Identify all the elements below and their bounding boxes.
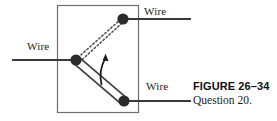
wire-label-top: Wire (144, 5, 166, 17)
rotation-arrowhead (103, 54, 109, 61)
figure-caption-subtitle: Question 20. (193, 93, 277, 107)
dotted-path-upper (78, 20, 121, 58)
contact-node-bottom (118, 95, 129, 106)
contact-node-top (117, 13, 128, 24)
wire-label-bottom: Wire (146, 80, 168, 92)
figure-caption: FIGURE 26–34 Question 20. (193, 80, 277, 107)
pivot-node (70, 54, 81, 65)
wire-label-left: Wire (27, 40, 49, 52)
figure-26-34: Wire Wire Wire FIGURE 26–34 Question 20. (0, 0, 277, 121)
dotted-path-lower (80, 24, 122, 62)
figure-caption-title: FIGURE 26–34 (193, 80, 277, 93)
